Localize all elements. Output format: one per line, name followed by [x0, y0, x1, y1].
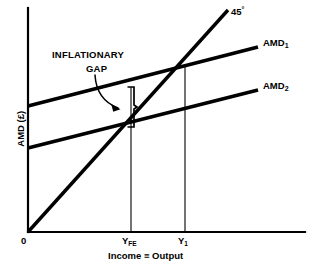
annotation-arrow-head: [111, 104, 120, 112]
inflationary-gap-figure: AMD (£) INFLATIONARY GAP 45° AMD1 AMD2 0…: [0, 0, 312, 265]
annotation-arrow-curve: [95, 75, 118, 108]
inflationary-gap-label-line1: INFLATIONARY: [52, 50, 124, 60]
x-tick-yfe: YFE: [122, 236, 137, 246]
curve-label-amd2: AMD2: [263, 81, 289, 91]
origin-label: 0: [21, 236, 26, 246]
y-axis-title: AMD (£): [16, 99, 26, 159]
curve-label-amd1: AMD1: [263, 38, 289, 48]
x-tick-y1: Y1: [178, 236, 188, 246]
inflationary-gap-label-line2: GAP: [86, 64, 107, 74]
x-axis-title: Income ≡ Output: [108, 251, 183, 261]
forty-five-degree-line: [28, 10, 228, 232]
curve-label-45-degree: 45°: [231, 7, 244, 17]
